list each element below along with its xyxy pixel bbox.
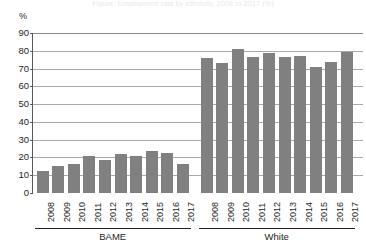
x-tick-label-bame-2008: 2008 — [47, 188, 56, 222]
group-rule-bame — [35, 228, 191, 229]
y-tick-mark-10 — [30, 175, 33, 176]
x-tick-label-bame-2015: 2015 — [156, 188, 165, 222]
x-tick-label-white-2014: 2014 — [305, 188, 314, 222]
y-tick-mark-20 — [30, 157, 33, 158]
x-tick-label-bame-2014: 2014 — [141, 188, 150, 222]
x-tick-label-white-2011: 2011 — [258, 188, 267, 222]
y-tick-mark-70 — [30, 69, 33, 70]
y-tick-label-90: 90 — [3, 28, 29, 38]
bar-white-2010 — [232, 49, 244, 193]
gridline-80 — [33, 51, 363, 52]
y-tick-mark-80 — [30, 51, 33, 52]
y-tick-label-30: 30 — [3, 135, 29, 145]
y-tick-label-40: 40 — [3, 117, 29, 127]
bar-white-2011 — [247, 57, 259, 193]
y-tick-label-20: 20 — [3, 152, 29, 162]
x-tick-label-bame-2009: 2009 — [63, 188, 72, 222]
y-tick-mark-0 — [30, 193, 33, 194]
x-tick-label-bame-2010: 2010 — [78, 188, 87, 222]
bar-bame-2015 — [146, 151, 158, 193]
y-axis-unit-label: % — [19, 12, 27, 21]
y-tick-label-60: 60 — [3, 81, 29, 91]
group-label-bame: BAME — [35, 231, 191, 242]
x-tick-label-white-2013: 2013 — [289, 188, 298, 222]
x-tick-label-bame-2017: 2017 — [187, 188, 196, 222]
y-tick-label-0: 0 — [3, 188, 29, 198]
x-tick-label-white-2017: 2017 — [351, 188, 360, 222]
y-tick-label-10: 10 — [3, 170, 29, 180]
group-rule-white — [199, 228, 355, 229]
cut-off-title-sliver: Figure: Employment rate by ethnicity, 20… — [0, 0, 366, 7]
y-tick-mark-50 — [30, 104, 33, 105]
gridline-90 — [33, 33, 363, 34]
x-tick-label-bame-2012: 2012 — [109, 188, 118, 222]
x-tick-label-white-2009: 2009 — [227, 188, 236, 222]
y-tick-mark-90 — [30, 33, 33, 34]
bar-white-2013 — [279, 57, 291, 193]
bar-white-2008 — [201, 58, 213, 193]
bar-white-2015 — [310, 67, 322, 193]
bar-white-2009 — [216, 63, 228, 193]
bar-white-2017 — [341, 52, 353, 193]
x-tick-label-white-2010: 2010 — [242, 188, 251, 222]
x-tick-label-bame-2013: 2013 — [125, 188, 134, 222]
bar-white-2014 — [294, 56, 306, 193]
x-tick-label-white-2008: 2008 — [211, 188, 220, 222]
bar-chart-figure: Figure: Employment rate by ethnicity, 20… — [0, 0, 366, 246]
x-tick-label-white-2016: 2016 — [336, 188, 345, 222]
bar-white-2012 — [263, 53, 275, 193]
x-tick-label-white-2012: 2012 — [273, 188, 282, 222]
bar-white-2016 — [325, 62, 337, 193]
group-label-white: White — [199, 231, 355, 242]
y-tick-mark-40 — [30, 122, 33, 123]
x-tick-label-bame-2011: 2011 — [94, 188, 103, 222]
y-tick-mark-30 — [30, 140, 33, 141]
x-tick-label-white-2015: 2015 — [320, 188, 329, 222]
y-tick-label-80: 80 — [3, 46, 29, 56]
x-tick-label-bame-2016: 2016 — [172, 188, 181, 222]
y-tick-label-50: 50 — [3, 99, 29, 109]
y-tick-label-70: 70 — [3, 64, 29, 74]
y-tick-mark-60 — [30, 86, 33, 87]
